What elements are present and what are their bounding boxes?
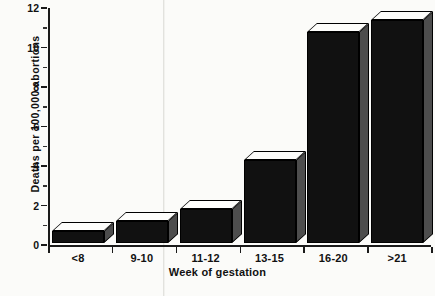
y-tick-label: 2 xyxy=(33,200,39,212)
x-tick-mark xyxy=(240,247,242,253)
plot-area: 024681012 xyxy=(48,8,431,245)
bar-top-face xyxy=(307,23,369,32)
x-tick-mark xyxy=(367,247,369,253)
y-tick-label: 6 xyxy=(33,121,39,133)
bar-front-face xyxy=(116,221,168,243)
y-tick-label: 10 xyxy=(27,42,39,54)
y-axis-line xyxy=(48,8,50,246)
x-tick-mark xyxy=(48,247,50,253)
y-tick-mark xyxy=(41,126,47,128)
x-category-label: 9-10 xyxy=(130,252,153,264)
y-tick-label: 8 xyxy=(33,81,39,93)
bar-front-face xyxy=(244,160,296,243)
chart-figure: Deaths per 100,000 abortions 024681012 <… xyxy=(0,0,435,296)
bar xyxy=(371,20,423,243)
bar xyxy=(180,209,232,243)
x-tick-mark xyxy=(176,247,178,253)
bar-side-face xyxy=(296,151,306,243)
y-tick-label: 12 xyxy=(27,2,39,14)
y-tick-mark xyxy=(43,146,47,148)
y-tick-mark xyxy=(41,244,47,246)
bar-front-face xyxy=(307,32,359,243)
bar-front-face xyxy=(52,231,104,243)
y-tick-mark xyxy=(41,86,47,88)
x-category-label: 16-20 xyxy=(319,252,348,264)
y-tick-mark xyxy=(41,165,47,167)
bar xyxy=(307,32,359,243)
x-category-label: 13-15 xyxy=(255,252,284,264)
bar-front-face xyxy=(371,20,423,243)
bar-top-face xyxy=(52,222,114,231)
x-category-label: <8 xyxy=(72,252,85,264)
bar xyxy=(52,231,104,243)
x-tick-mark xyxy=(112,247,114,253)
x-axis-title: Week of gestation xyxy=(0,266,435,278)
y-tick-label: 4 xyxy=(33,160,39,172)
y-tick-mark xyxy=(43,185,47,187)
bar xyxy=(116,221,168,243)
bar-side-face xyxy=(359,23,369,243)
y-tick-mark xyxy=(41,205,47,207)
y-tick-mark xyxy=(41,7,47,9)
y-tick-mark xyxy=(43,67,47,69)
y-tick-mark xyxy=(43,106,47,108)
bar xyxy=(244,160,296,243)
y-tick-mark xyxy=(41,47,47,49)
bar-top-face xyxy=(116,212,178,221)
bar-front-face xyxy=(180,209,232,243)
bar-top-face xyxy=(244,151,306,160)
x-category-label: 11-12 xyxy=(191,252,220,264)
y-tick-mark xyxy=(43,27,47,29)
x-tick-mark xyxy=(431,247,433,253)
x-category-label: >21 xyxy=(388,252,407,264)
x-tick-mark xyxy=(303,247,305,253)
bar-top-face xyxy=(180,200,242,209)
bar-top-face xyxy=(371,11,433,20)
bar-side-face xyxy=(423,11,433,243)
y-tick-label: 0 xyxy=(33,239,39,251)
y-tick-mark xyxy=(43,225,47,227)
